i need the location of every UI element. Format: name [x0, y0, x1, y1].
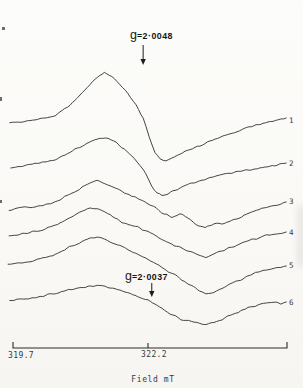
- trace-5: [8, 237, 286, 294]
- g-symbol: g: [130, 28, 137, 42]
- trace-label-6: 6: [289, 298, 294, 307]
- field-axis: [13, 342, 287, 348]
- trace-6: [10, 285, 286, 324]
- g-value-text: =2·0037: [132, 272, 168, 282]
- trace-4: [9, 208, 286, 258]
- annotation-arrowhead-icon: [140, 59, 145, 65]
- g-value-text: =2·0048: [137, 31, 173, 41]
- g-symbol: g: [125, 269, 132, 283]
- trace-1: [10, 72, 286, 160]
- axis-tick-label-center: 322.2: [141, 350, 167, 359]
- trace-lines: [8, 72, 286, 324]
- trace-label-5: 5: [289, 261, 294, 270]
- axis-tick-label-left: 319.7: [8, 351, 34, 360]
- axis-line: [13, 342, 287, 348]
- trace-2: [11, 138, 286, 196]
- g-value-annotation-bottom: g=2·0037: [125, 269, 168, 283]
- annotation-arrowhead-icon: [149, 291, 154, 297]
- trace-3: [9, 180, 286, 227]
- x-axis-title: Field mT: [131, 375, 174, 384]
- g-value-annotation-top: g=2·0048: [130, 28, 173, 42]
- trace-label-3: 3: [289, 197, 294, 206]
- trace-label-2: 2: [289, 159, 294, 168]
- epr-spectra-chart: g=2·0048 g=2·0037 1 2 3 4 5 6 319.7 322.…: [0, 0, 303, 388]
- trace-label-1: 1: [289, 116, 294, 125]
- trace-label-4: 4: [289, 228, 294, 237]
- scanned-figure-page: g=2·0048 g=2·0037 1 2 3 4 5 6 319.7 322.…: [0, 0, 303, 388]
